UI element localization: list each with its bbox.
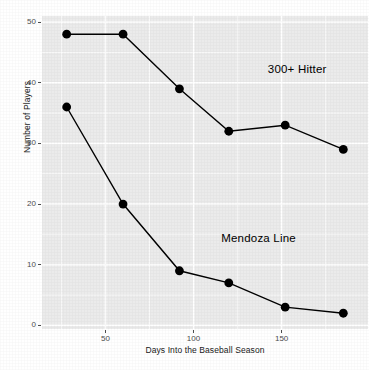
x-tick-label: 150	[262, 334, 302, 343]
y-tick-label: 20	[12, 199, 36, 208]
y-tick-mark	[38, 143, 41, 144]
data-point	[175, 84, 184, 93]
data-point	[62, 30, 71, 39]
y-tick-mark	[38, 82, 41, 83]
x-tick-mark	[193, 330, 194, 333]
data-point	[339, 309, 348, 318]
data-point	[224, 278, 233, 287]
data-point	[224, 127, 233, 136]
data-point	[119, 200, 128, 209]
y-tick-mark	[38, 264, 41, 265]
data-point	[281, 303, 290, 312]
y-axis-title: Number of Players	[22, 52, 32, 182]
data-point	[339, 145, 348, 154]
x-tick-label: 100	[174, 334, 214, 343]
x-tick-mark	[281, 330, 282, 333]
x-tick-mark	[105, 330, 106, 333]
data-point	[175, 266, 184, 275]
series-label-300-hitter: 300+ Hitter	[268, 63, 327, 75]
data-point	[62, 103, 71, 112]
y-tick-mark	[38, 204, 41, 205]
x-tick-label: 50	[85, 334, 125, 343]
y-tick-label: 0	[12, 320, 36, 329]
x-axis-title: Days Into the Baseball Season	[42, 345, 368, 355]
data-point	[281, 121, 290, 130]
chart-container: 01020304050 50100150 Number of Players D…	[0, 0, 369, 370]
y-tick-label: 10	[12, 260, 36, 269]
y-tick-mark	[38, 325, 41, 326]
y-tick-label: 50	[12, 17, 36, 26]
plot-panel	[0, 0, 369, 370]
series-label-mendoza-line: Mendoza Line	[221, 232, 296, 244]
data-point	[119, 30, 128, 39]
y-tick-mark	[38, 22, 41, 23]
